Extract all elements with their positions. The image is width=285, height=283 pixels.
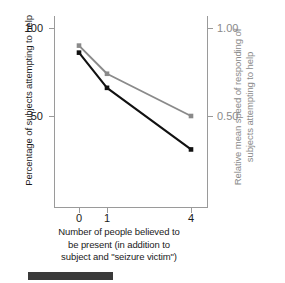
data-point-marker [77, 50, 82, 55]
series-relative-speed [77, 43, 194, 118]
x-tick-label-4: 4 [176, 212, 206, 224]
series-plot [55, 16, 209, 208]
series-line [79, 46, 191, 116]
x-axis-title-line-3: subject and "seizure victim") [24, 251, 214, 264]
plot-area: 100 50 1.00 0.50 0 1 4 [54, 16, 208, 208]
right-tick-label-1.00: 1.00 [217, 22, 257, 34]
data-point-marker [189, 147, 194, 152]
x-tick-label-1: 1 [92, 212, 122, 224]
x-tick-label-0: 0 [64, 212, 94, 224]
right-axis-title: Relative mean speed of responding of sub… [232, 13, 256, 201]
chart-figure: Percentage of subjects attempting to hel… [0, 0, 285, 283]
caption-bar [28, 272, 113, 280]
series-line [79, 53, 191, 150]
left-tick-label-50: 50 [9, 110, 43, 122]
series-percentage-helping [77, 50, 194, 151]
x-axis-title-line-2: be present (in addition to [24, 239, 214, 252]
data-point-marker [77, 43, 82, 48]
data-point-marker [105, 86, 110, 91]
x-axis-title-line-1: Number of people believed to [24, 226, 214, 239]
data-point-marker [189, 114, 194, 119]
x-axis-title: Number of people believed to be present … [24, 226, 214, 264]
data-point-marker [105, 71, 110, 76]
right-tick-label-0.50: 0.50 [217, 110, 257, 122]
left-axis-title: Percentage of subjects attempting to hel… [23, 11, 34, 191]
left-tick-label-100: 100 [9, 22, 43, 34]
